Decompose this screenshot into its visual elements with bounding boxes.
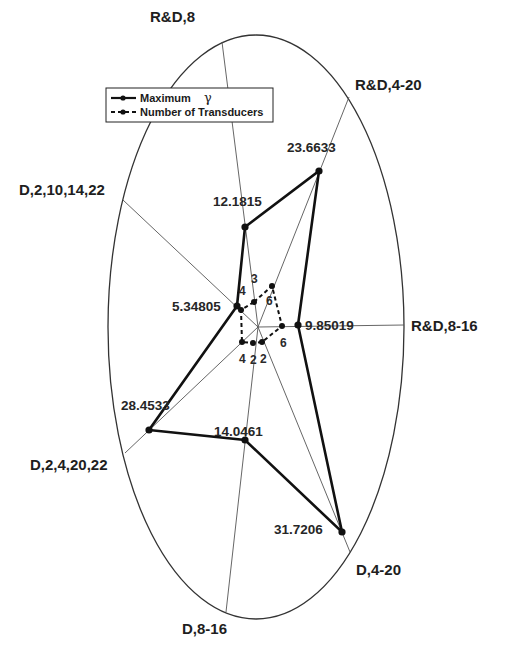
transducers-value-label: 6 (266, 294, 273, 308)
transducers-marker (239, 339, 245, 345)
gamma-value-label: 31.7206 (274, 522, 323, 537)
transducers-value-label: 6 (280, 336, 287, 350)
axis-label: R&D,4-20 (355, 76, 422, 93)
gamma-marker (145, 426, 152, 433)
transducers-marker (259, 339, 265, 345)
transducers-marker (279, 323, 285, 329)
transducers-marker (269, 283, 275, 289)
legend-gamma-symbol: γ (204, 90, 212, 105)
gamma-value-label: 23.6633 (287, 140, 336, 155)
axis-label: R&D,8-16 (411, 317, 478, 334)
gamma-value-label: 14.0461 (214, 424, 263, 439)
legend: Maximum γ Number of Transducers (106, 88, 273, 122)
gamma-marker (294, 321, 301, 328)
gamma-marker (315, 167, 322, 174)
gamma-marker (241, 223, 248, 230)
gamma-value-label: 12.1815 (213, 194, 262, 209)
radar-chart: 3662244 12.181523.66339.8501931.720614.0… (0, 0, 510, 647)
gamma-value-label: 5.34805 (172, 299, 221, 314)
axis-label: R&D,8 (150, 8, 195, 25)
transducers-value-label: 2 (250, 353, 257, 367)
transducers-marker (251, 299, 257, 305)
legend-entry-transducers: Number of Transducers (140, 106, 263, 118)
gamma-marker (338, 528, 345, 535)
gamma-marker (233, 302, 240, 309)
axis-label: D,8-16 (182, 620, 227, 637)
transducers-value-label: 3 (251, 272, 258, 286)
axis-label: D,2,10,14,22 (19, 181, 105, 198)
transducers-value-label: 2 (260, 352, 267, 366)
gamma-value-label: 28.4533 (121, 398, 170, 413)
transducers-marker (250, 340, 256, 346)
transducers-value-label: 4 (239, 352, 246, 366)
series-number-of-transducers: 3662244 (238, 272, 287, 367)
legend-solid-marker-icon (120, 95, 125, 100)
spoke-line (258, 327, 350, 552)
legend-entry-maximum: Maximum (140, 92, 191, 104)
axis-label: D,4-20 (356, 561, 401, 578)
legend-dashed-marker-icon (120, 109, 125, 114)
gamma-value-label: 9.85019 (305, 318, 354, 333)
axis-label: D,2,4,20,22 (30, 456, 108, 473)
spoke-line (226, 327, 258, 612)
